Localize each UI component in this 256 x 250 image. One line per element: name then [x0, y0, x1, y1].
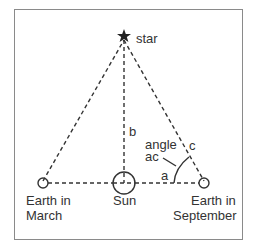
angle-pointer — [163, 158, 176, 166]
earth-september-label-line1: Earth in — [191, 193, 236, 208]
line-c — [124, 40, 204, 181]
angle-label-line2: ac — [145, 149, 159, 164]
segment-b-label: b — [129, 124, 136, 139]
segment-a-label: a — [161, 168, 168, 183]
sun-label: Sun — [113, 193, 136, 208]
earth-march-label-line1: Earth in — [26, 193, 71, 208]
star-label: star — [136, 31, 158, 46]
earth-september-label-line2: September — [173, 208, 237, 223]
angle-arc — [174, 157, 189, 183]
line-march-to-star — [43, 40, 124, 181]
earth-march-circle — [38, 178, 48, 188]
segment-c-label: c — [189, 138, 196, 153]
earth-march-label-line2: March — [26, 208, 62, 223]
earth-september-circle — [199, 178, 209, 188]
